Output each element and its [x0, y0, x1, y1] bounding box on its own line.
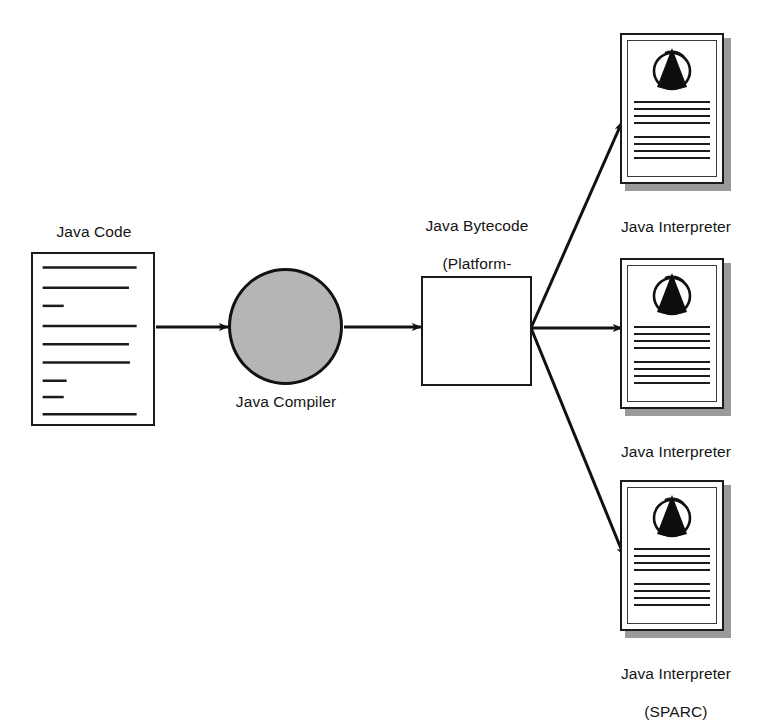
- java-bytecode-label-line2: (Platform-: [399, 254, 555, 273]
- text-rule: [634, 382, 710, 384]
- text-rule: [634, 604, 710, 606]
- text-rule: [634, 583, 710, 585]
- java-code-lines: [33, 254, 152, 423]
- java-duke-cone-icon: [644, 492, 700, 542]
- text-rule: [634, 136, 710, 138]
- java-bytecode-node: [421, 276, 532, 386]
- text-rule: [634, 340, 710, 342]
- java-bytecode-label-line1: Java Bytecode: [399, 216, 555, 235]
- java-code-label: Java Code: [10, 222, 178, 241]
- text-rule: [634, 333, 710, 335]
- text-rule: [634, 157, 710, 159]
- text-rule: [634, 115, 710, 117]
- interpreter-card-powerpc: Java Interpreter (Power PC): [620, 258, 731, 416]
- card-text-lines: [634, 548, 710, 611]
- text-rule: [634, 108, 710, 110]
- java-duke-cone-icon: [644, 45, 700, 95]
- java-compiler-node: [228, 268, 343, 385]
- text-rule: [634, 122, 710, 124]
- text-rule: [634, 569, 710, 571]
- text-rule: [634, 597, 710, 599]
- card-sheet: [620, 258, 724, 409]
- text-rule: [634, 326, 710, 328]
- text-rule: [634, 143, 710, 145]
- interpreter-label-line1: Java Interpreter: [576, 664, 765, 683]
- text-rule: [634, 347, 710, 349]
- text-rule: [634, 375, 710, 377]
- java-code-document: [31, 252, 155, 426]
- interpreter-label-line2: (SPARC): [576, 702, 765, 721]
- java-duke-cone-icon: [644, 270, 700, 320]
- text-rule: [634, 590, 710, 592]
- text-rule: [634, 101, 710, 103]
- interpreter-label-line1: Java Interpreter: [576, 442, 765, 461]
- text-rule: [634, 562, 710, 564]
- text-rule: [634, 548, 710, 550]
- java-compiler-label: Java Compiler: [198, 392, 374, 411]
- card-text-lines: [634, 326, 710, 389]
- card-sheet: [620, 33, 724, 184]
- card-sheet: [620, 480, 724, 631]
- text-rule: [634, 368, 710, 370]
- card-text-lines: [634, 101, 710, 164]
- interpreter-card-sparc: Java Interpreter (SPARC): [620, 480, 731, 638]
- text-rule: [634, 150, 710, 152]
- interpreter-label-line1: Java Interpreter: [576, 217, 765, 236]
- text-rule: [634, 361, 710, 363]
- interpreter-card-pentium: Java Interpreter (Pentium): [620, 33, 731, 191]
- text-rule: [634, 555, 710, 557]
- interpreter-label-sparc: Java Interpreter (SPARC): [576, 645, 765, 724]
